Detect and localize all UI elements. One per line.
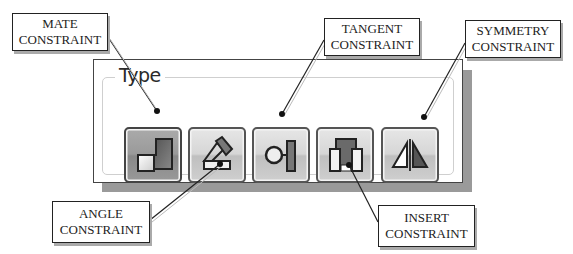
callout-symmetry-constraint: SYMMETRY CONSTRAINT bbox=[465, 20, 561, 58]
callout-mate-constraint: MATE CONSTRAINT bbox=[12, 13, 108, 51]
callout-line2: CONSTRAINT bbox=[325, 37, 419, 53]
callout-line1: INSERT bbox=[379, 210, 474, 226]
callout-line1: MATE bbox=[13, 16, 107, 32]
callout-angle-constraint: ANGLE CONSTRAINT bbox=[52, 201, 150, 243]
callout-line1: SYMMETRY bbox=[466, 23, 560, 39]
callout-line2: CONSTRAINT bbox=[379, 226, 474, 242]
callout-insert-constraint: INSERT CONSTRAINT bbox=[378, 205, 475, 247]
callout-line2: CONSTRAINT bbox=[466, 39, 560, 55]
callout-tangent-constraint: TANGENT CONSTRAINT bbox=[324, 18, 420, 56]
callout-line2: CONSTRAINT bbox=[53, 222, 149, 238]
callout-line1: ANGLE bbox=[53, 206, 149, 222]
callout-line2: CONSTRAINT bbox=[13, 32, 107, 48]
callout-line1: TANGENT bbox=[325, 21, 419, 37]
